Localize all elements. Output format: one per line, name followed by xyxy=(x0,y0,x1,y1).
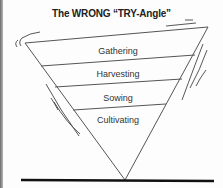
layer-harvesting: Harvesting xyxy=(68,69,168,79)
layer-cultivating: Cultivating xyxy=(68,115,168,125)
divider-3 xyxy=(73,104,166,110)
sketch-mark-top-right xyxy=(166,20,196,26)
layer-gathering: Gathering xyxy=(68,46,168,56)
divider-2 xyxy=(55,79,182,87)
base-line xyxy=(21,180,214,181)
sketch-mark-top-left xyxy=(16,32,40,47)
layer-sowing: Sowing xyxy=(68,93,168,103)
diagram-canvas: The WRONG “TRY-Angle” Gathering Harvesti… xyxy=(0,0,223,188)
divider-1 xyxy=(41,55,195,66)
